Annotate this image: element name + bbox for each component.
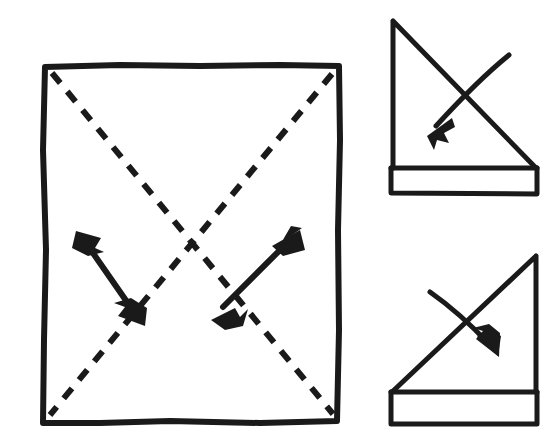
fold-arrow-right-head-lower [211, 308, 248, 330]
bottom-flap-band-outline [391, 168, 537, 194]
fold-arrow-left-head-upper [72, 231, 104, 256]
fold-arrow-left [72, 231, 147, 326]
fold-arrow-right [211, 226, 305, 330]
origami-diagram-root: Origami fold diagram: square with diagon… [0, 0, 558, 447]
triangle-outline-right-facing [392, 256, 536, 392]
bottom-right-panel [391, 256, 537, 424]
figure-canvas [0, 0, 558, 447]
turn-over-arrow-top-shaft [436, 55, 509, 126]
top-right-panel [391, 21, 537, 194]
main-square-panel [43, 65, 340, 423]
bottom-flap-band-outline-2 [391, 392, 537, 424]
